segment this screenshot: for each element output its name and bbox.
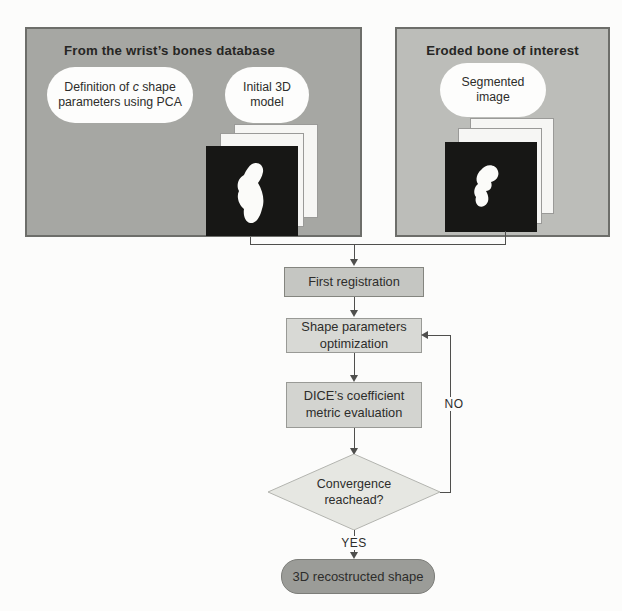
- connector-right-drop: [505, 231, 506, 245]
- bone-shape-icon: [445, 142, 537, 232]
- connector-line: [354, 297, 355, 311]
- bone-shape-icon: [206, 146, 298, 236]
- arrowhead-into-first-registration: [350, 259, 358, 266]
- connector-merge-horizontal: [250, 244, 506, 245]
- connector-line: [354, 353, 355, 376]
- ellipse-segmented-image: Segmented image: [440, 63, 546, 117]
- arrowhead-into-shape-optimization-loop: [421, 331, 428, 339]
- arrowhead-into-shape-optimization: [350, 310, 358, 317]
- slice-front: [206, 146, 298, 236]
- panel-wrist-database: From the wrist’s bones database Definiti…: [25, 27, 362, 237]
- node-3d-reconstructed-shape: 3D recostructed shape: [281, 559, 435, 594]
- no-branch-horizontal-top: [427, 335, 451, 336]
- node-shape-parameters-optimization: Shape parameters optimization: [286, 318, 422, 353]
- ellipse-initial-3d-model: Initial 3D model: [225, 67, 309, 123]
- node-convergence-decision: Convergence reachead?: [268, 454, 440, 530]
- ellipse-pca-text: Definition of c shape parameters using P…: [53, 80, 187, 111]
- no-branch-vertical: [450, 335, 451, 493]
- panel-title: Eroded bone of interest: [397, 43, 608, 58]
- connector-line: [354, 428, 355, 449]
- panel-eroded-bone: Eroded bone of interest Segmented image: [395, 27, 610, 237]
- connector-merge-drop: [354, 244, 355, 260]
- node-first-registration: First registration: [284, 267, 424, 297]
- yes-label: YES: [330, 536, 378, 550]
- ellipse-pca-definition: Definition of c shape parameters using P…: [47, 67, 193, 123]
- panel-title: From the wrist’s bones database: [27, 43, 312, 58]
- slice-front: [445, 142, 537, 232]
- flow-diagram: From the wrist’s bones database Definiti…: [0, 0, 622, 611]
- arrowhead-into-result: [350, 552, 358, 559]
- arrowhead-into-dice-evaluation: [350, 375, 358, 382]
- no-label: NO: [432, 397, 476, 411]
- node-dice-evaluation: DICE’s coefficient metric evaluation: [286, 382, 422, 428]
